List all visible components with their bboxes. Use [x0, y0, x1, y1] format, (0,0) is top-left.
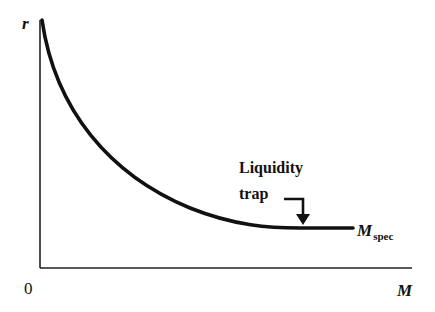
- arrow-head-icon: [296, 214, 310, 225]
- x-axis-label: M: [397, 282, 412, 299]
- liquidity-trap-arrow-shaft: [284, 199, 303, 216]
- diagram-canvas: [0, 0, 435, 312]
- annotation-line-1: Liquidity: [239, 160, 303, 176]
- origin-label: 0: [24, 280, 33, 297]
- curve-label-main: M: [357, 221, 372, 240]
- y-axis-label: r: [22, 15, 29, 32]
- money-demand-curve: [42, 20, 353, 228]
- curve-label: Mspec: [357, 222, 393, 239]
- liquidity-trap-diagram: r 0 M Liquidity trap Mspec: [0, 0, 435, 312]
- annotation-line-2: trap: [239, 186, 268, 202]
- curve-label-subscript: spec: [373, 230, 393, 242]
